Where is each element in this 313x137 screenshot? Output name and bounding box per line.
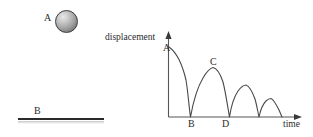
graph-point-label-b: B [188, 119, 195, 129]
physics-figure: A B displacement time A C B D [0, 0, 313, 137]
displacement-time-graph [0, 0, 313, 137]
y-axis-label: displacement [105, 33, 155, 43]
graph-point-label-d: D [222, 119, 229, 129]
x-axis-label: time [283, 120, 300, 130]
bounce-curve [169, 47, 282, 117]
graph-point-label-c: C [210, 57, 217, 67]
y-axis-arrowhead [165, 31, 171, 39]
graph-point-label-a: A [163, 43, 170, 53]
